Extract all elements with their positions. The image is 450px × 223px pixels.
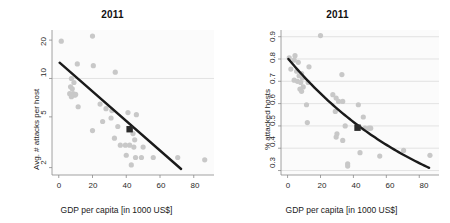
panel-left-plot [0, 0, 225, 223]
panel-percent-attacked-hosts: 2011 % attacked hosts GDP per capita [in… [225, 0, 450, 223]
panel-avg-attacks-per-host: 2011 Avg. # attacks per host GDP per cap… [0, 0, 225, 223]
figure-two-panel-scatter: 2011 Avg. # attacks per host GDP per cap… [0, 0, 450, 223]
panel-right-plot [225, 0, 450, 223]
